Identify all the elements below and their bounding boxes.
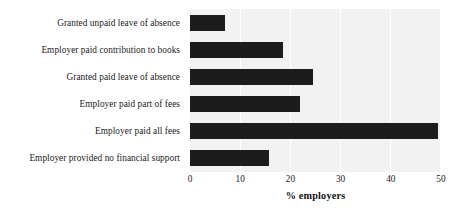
category-label: Employer paid part of fees — [0, 99, 180, 110]
plot-panel — [190, 9, 441, 172]
x-tick-label: 50 — [436, 174, 445, 184]
x-tick-label: 40 — [386, 174, 395, 184]
bar — [190, 69, 313, 85]
category-label: Employer paid all fees — [0, 126, 180, 137]
x-axis-ticks: 01020304050 — [190, 172, 441, 192]
x-tick-label: 10 — [236, 174, 245, 184]
category-label: Granted paid leave of absence — [0, 71, 180, 82]
gridline — [240, 9, 241, 172]
bar — [190, 150, 269, 166]
horizontal-bar-chart: Granted unpaid leave of absenceEmployer … — [0, 0, 465, 224]
gridline — [290, 9, 291, 172]
gridline — [390, 9, 391, 172]
x-axis-title: % employers — [190, 190, 441, 201]
bar — [190, 15, 225, 31]
x-tick-label: 20 — [286, 174, 295, 184]
bar — [190, 123, 438, 139]
gridline — [340, 9, 341, 172]
category-label: Employer paid contribution to books — [0, 44, 180, 55]
category-label: Employer provided no financial support — [0, 153, 180, 164]
x-tick-label: 30 — [336, 174, 345, 184]
bar — [190, 96, 300, 112]
category-label: Granted unpaid leave of absence — [0, 17, 180, 28]
gridline — [440, 9, 441, 172]
x-tick-label: 0 — [188, 174, 193, 184]
category-axis: Granted unpaid leave of absenceEmployer … — [0, 9, 188, 172]
bar — [190, 42, 283, 58]
